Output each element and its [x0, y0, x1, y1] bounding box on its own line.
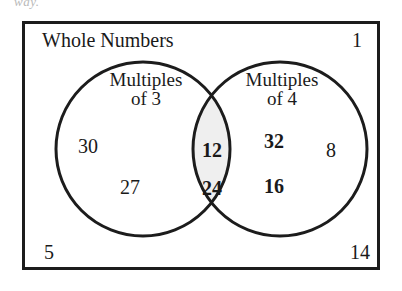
- element-27: 27: [112, 177, 148, 197]
- set-label-line-1: Multiples: [110, 69, 183, 90]
- element-14: 14: [340, 242, 380, 262]
- universal-set-label: Whole Numbers: [42, 30, 174, 50]
- element-12: 12: [195, 140, 229, 160]
- set-label-multiples-of-3: Multiples of 3: [98, 70, 194, 109]
- element-1: 1: [344, 30, 370, 50]
- element-30: 30: [70, 136, 106, 156]
- set-label-line-2: of 3: [98, 89, 194, 108]
- element-16: 16: [256, 176, 292, 196]
- set-label-line-1: Multiples: [246, 69, 319, 90]
- element-5: 5: [36, 242, 62, 262]
- element-8: 8: [318, 140, 344, 160]
- element-24: 24: [195, 178, 229, 198]
- venn-diagram-figure: Whole Numbers Multiples of 3 Multiples o…: [0, 0, 402, 291]
- element-32: 32: [256, 131, 292, 151]
- set-label-multiples-of-4: Multiples of 4: [234, 70, 330, 109]
- set-label-line-2: of 4: [234, 89, 330, 108]
